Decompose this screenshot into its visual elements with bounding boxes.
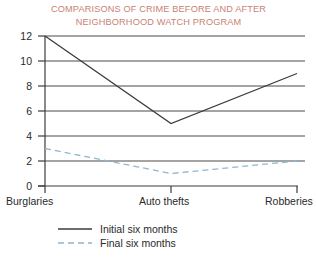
- xtick-label-auto-thefts: Auto thefts: [139, 196, 189, 207]
- legend-swatch-solid-line-icon: [58, 224, 92, 234]
- legend-label-final-six-months: Final six months: [100, 237, 176, 249]
- ytick-label-8: 8: [10, 81, 32, 92]
- xtick-label-robberies: Robberies: [265, 196, 313, 207]
- gridlines: [45, 36, 305, 161]
- chart-figure: COMPARISONS OF CRIME BEFORE AND AFTER NE…: [0, 0, 317, 260]
- plot-area: [0, 0, 317, 260]
- chart-legend: Initial six months Final six months: [58, 222, 268, 250]
- xtick-label-burglaries: Burglaries: [6, 196, 53, 207]
- ytick-label-4: 4: [10, 131, 32, 142]
- x-axis-ticks: [45, 186, 297, 193]
- ytick-label-12: 12: [10, 31, 32, 42]
- legend-item-initial-six-months: Initial six months: [58, 222, 268, 236]
- legend-item-final-six-months: Final six months: [58, 236, 268, 250]
- series-line-initial-six-months: [45, 36, 297, 124]
- legend-label-initial-six-months: Initial six months: [100, 223, 178, 235]
- legend-swatch-dashed-line-icon: [58, 238, 92, 248]
- ytick-label-10: 10: [10, 56, 32, 67]
- ytick-label-0: 0: [10, 181, 32, 192]
- y-axis-ticks: [38, 36, 45, 186]
- ytick-label-6: 6: [10, 106, 32, 117]
- ytick-label-2: 2: [10, 156, 32, 167]
